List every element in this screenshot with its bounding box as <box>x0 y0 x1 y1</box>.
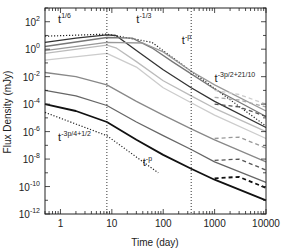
plot-series-group <box>45 34 266 200</box>
y-tick-label: 10-4 <box>23 97 40 110</box>
y-tick-label: 102 <box>25 15 40 28</box>
x-axis-label: Time (day) <box>131 237 178 248</box>
y-tick-label: 100 <box>25 42 40 55</box>
y-tick-label: 10-2 <box>23 70 40 83</box>
annotation-power-law: t-3p/4+1/2 <box>58 130 91 143</box>
x-tick-label: 10000 <box>252 218 280 229</box>
y-tick-label: 10-8 <box>23 152 40 165</box>
y-axis-label: Flux Density (mJy) <box>2 71 13 154</box>
flux-density-chart: 110100100010000 10210010-210-410-610-810… <box>0 0 287 252</box>
annotation-power-law: t-1/3 <box>136 12 151 25</box>
series-curve-8 <box>45 104 266 200</box>
y-tick-label: 10-6 <box>23 125 40 138</box>
x-tick-label: 1 <box>58 218 64 229</box>
series-curve-4 <box>45 45 266 132</box>
x-tick-label: 1000 <box>203 218 226 229</box>
annotation-power-law: t-p <box>182 33 191 46</box>
x-tick-label: 10 <box>106 218 118 229</box>
series-curve-5 <box>45 53 266 138</box>
annotation-power-law: t-3p/2+21/10 <box>215 71 256 84</box>
annotation-power-law: t-p <box>143 155 152 168</box>
x-tick-label: 100 <box>155 218 172 229</box>
annotation-power-law: t1/6 <box>58 12 71 25</box>
y-tick-label: 10-10 <box>19 180 40 193</box>
y-tick-label: 10-12 <box>19 207 40 220</box>
y-axis: 10210010-210-410-610-810-1010-12 <box>19 8 266 220</box>
